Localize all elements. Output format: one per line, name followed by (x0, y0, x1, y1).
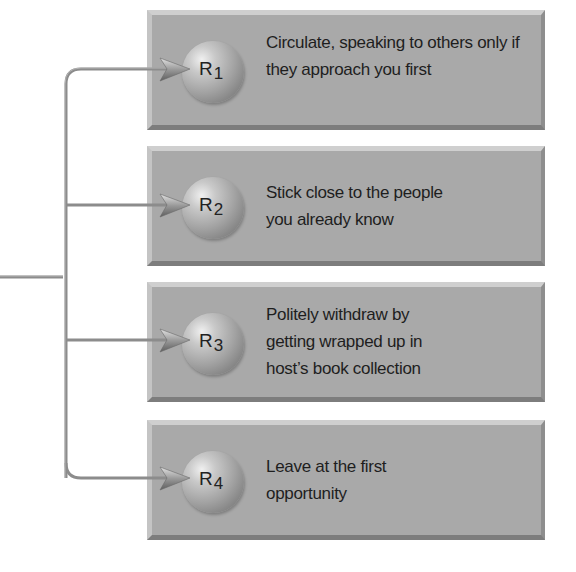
connector-lines (0, 0, 576, 572)
response-hierarchy-diagram: R1 Circulate, speaking to others only if… (0, 0, 576, 572)
